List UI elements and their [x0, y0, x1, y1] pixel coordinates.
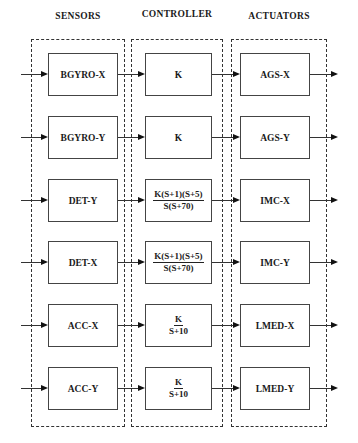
transfer-function: KS+10 — [169, 315, 188, 337]
tf-denominator: S+10 — [169, 326, 188, 336]
arrow-head-icon — [233, 71, 240, 77]
arrow-head-icon — [41, 71, 48, 77]
output-line — [310, 200, 332, 201]
tf-numerator: K(S+1)(S+5) — [153, 190, 203, 201]
connector-line — [118, 137, 139, 138]
controller-block: KS+10 — [145, 367, 212, 410]
arrow-head-icon — [41, 197, 48, 203]
arrow-head-icon — [41, 134, 48, 140]
controller-gain-label: K — [175, 70, 182, 80]
controller-block: K(S+1)(S+5)S(S+70) — [145, 241, 212, 284]
arrow-head-icon — [331, 197, 338, 203]
sensor-label: ACC-X — [68, 321, 99, 331]
controller-block: K — [145, 53, 212, 96]
connector-line — [118, 262, 139, 263]
output-line — [310, 137, 332, 138]
arrow-head-icon — [233, 385, 240, 391]
arrow-head-icon — [331, 134, 338, 140]
sensor-block: ACC-X — [48, 304, 118, 347]
actuator-block: LMED-Y — [240, 367, 310, 410]
connector-line — [212, 262, 234, 263]
controller-block: KS+10 — [145, 304, 212, 347]
transfer-function: K(S+1)(S+5)S(S+70) — [153, 190, 203, 212]
output-line — [310, 262, 332, 263]
arrow-head-icon — [331, 259, 338, 265]
arrow-head-icon — [138, 385, 145, 391]
tf-denominator: S+10 — [169, 389, 188, 399]
connector-line — [212, 325, 234, 326]
connector-line — [212, 388, 234, 389]
arrow-head-icon — [233, 134, 240, 140]
output-line — [310, 388, 332, 389]
arrow-head-icon — [138, 259, 145, 265]
controller-block: K(S+1)(S+5)S(S+70) — [145, 179, 212, 222]
sensor-block: DET-Y — [48, 179, 118, 222]
actuator-block: IMC-X — [240, 179, 310, 222]
actuator-block: LMED-X — [240, 304, 310, 347]
controller-block: K — [145, 116, 212, 159]
actuator-label: IMC-Y — [260, 258, 290, 268]
transfer-function: K(S+1)(S+5)S(S+70) — [153, 252, 203, 274]
arrow-head-icon — [233, 322, 240, 328]
arrow-head-icon — [331, 71, 338, 77]
actuator-block: AGS-X — [240, 53, 310, 96]
arrow-head-icon — [138, 134, 145, 140]
input-line — [21, 200, 43, 201]
arrow-head-icon — [41, 259, 48, 265]
tf-numerator: K — [174, 315, 183, 326]
connector-line — [118, 74, 139, 75]
header-actuators: ACTUATORS — [231, 11, 327, 21]
connector-line — [212, 137, 234, 138]
sensor-label: BGYRO-Y — [61, 133, 106, 143]
arrow-head-icon — [138, 322, 145, 328]
input-line — [21, 74, 43, 75]
input-line — [21, 137, 43, 138]
input-line — [21, 262, 43, 263]
tf-numerator: K — [174, 378, 183, 389]
sensor-label: DET-X — [69, 258, 98, 268]
tf-numerator: K(S+1)(S+5) — [153, 252, 203, 263]
arrow-head-icon — [41, 322, 48, 328]
sensor-block: ACC-Y — [48, 367, 118, 410]
arrow-head-icon — [233, 197, 240, 203]
connector-line — [118, 325, 139, 326]
connector-line — [118, 388, 139, 389]
input-line — [21, 388, 43, 389]
header-sensors: SENSORS — [31, 11, 125, 21]
output-line — [310, 325, 332, 326]
sensor-block: BGYRO-Y — [48, 116, 118, 159]
actuator-label: IMC-X — [260, 196, 290, 206]
arrow-head-icon — [331, 322, 338, 328]
connector-line — [118, 200, 139, 201]
actuator-block: IMC-Y — [240, 241, 310, 284]
output-line — [310, 74, 332, 75]
arrow-head-icon — [233, 259, 240, 265]
arrow-head-icon — [41, 385, 48, 391]
arrow-head-icon — [138, 197, 145, 203]
actuator-block: AGS-Y — [240, 116, 310, 159]
sensor-block: BGYRO-X — [48, 53, 118, 96]
arrow-head-icon — [331, 385, 338, 391]
header-controller: CONTROLLER — [131, 9, 223, 19]
transfer-function: KS+10 — [169, 378, 188, 400]
sensor-label: BGYRO-X — [61, 70, 106, 80]
connector-line — [212, 74, 234, 75]
connector-line — [212, 200, 234, 201]
actuator-label: LMED-Y — [256, 384, 295, 394]
sensor-block: DET-X — [48, 241, 118, 284]
sensor-label: ACC-Y — [68, 384, 99, 394]
actuator-label: AGS-X — [260, 70, 290, 80]
tf-denominator: S(S+70) — [163, 263, 193, 273]
controller-gain-label: K — [175, 133, 182, 143]
actuator-label: LMED-X — [256, 321, 295, 331]
tf-denominator: S(S+70) — [163, 201, 193, 211]
input-line — [21, 325, 43, 326]
sensor-label: DET-Y — [69, 196, 98, 206]
actuator-label: AGS-Y — [260, 133, 290, 143]
arrow-head-icon — [138, 71, 145, 77]
